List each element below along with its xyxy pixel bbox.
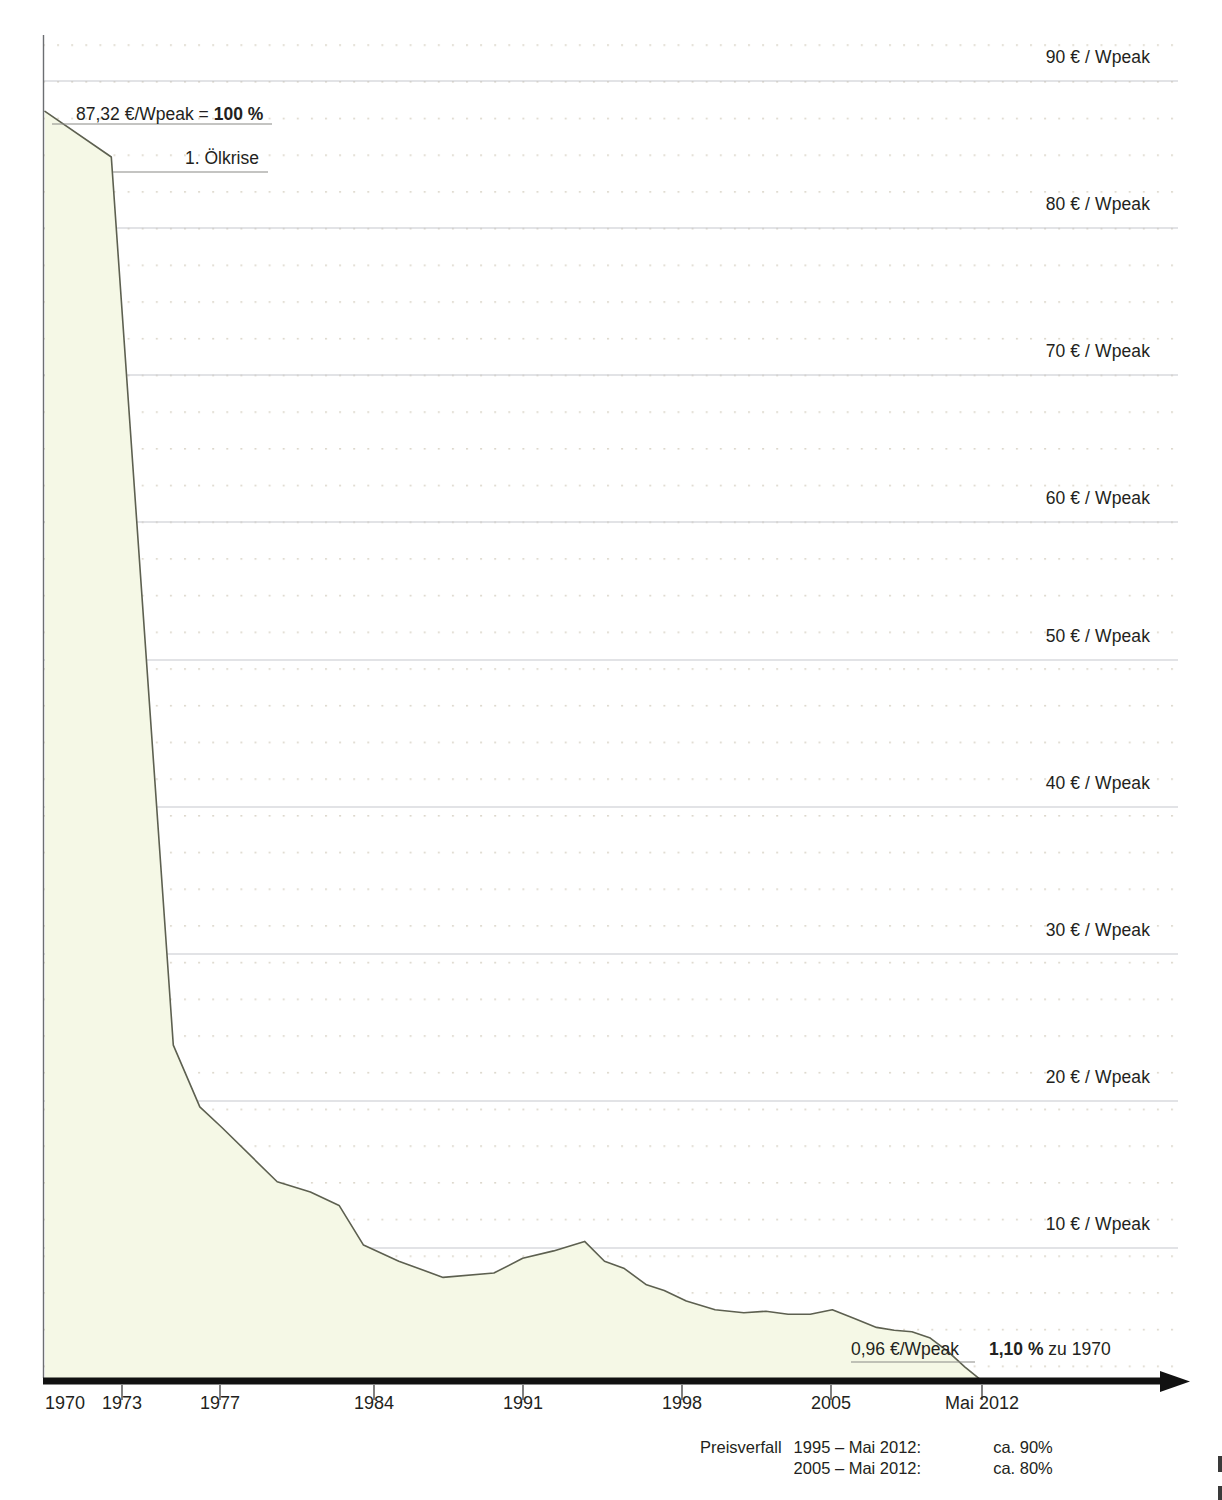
y-axis-label-70: 70 € / Wpeak	[1046, 341, 1150, 362]
annotation-end-value-text: 0,96 €/Wpeak	[851, 1339, 959, 1359]
y-axis-label-20: 20 € / Wpeak	[1046, 1067, 1150, 1088]
annotation-end-percent: 1,10 % zu 1970	[989, 1339, 1111, 1360]
y-axis-label-80: 80 € / Wpeak	[1046, 194, 1150, 215]
chart-canvas	[0, 0, 1222, 1500]
price-decline-footer: Preisverfall 1995 – Mai 2012: ca. 90% 20…	[700, 1437, 1053, 1479]
y-axis-label-50: 50 € / Wpeak	[1046, 626, 1150, 647]
annotation-end-value: 0,96 €/Wpeak	[851, 1339, 959, 1360]
x-axis-label-1973: 1973	[102, 1393, 142, 1414]
footer-value-1: ca. 90%	[993, 1437, 1053, 1458]
footer-value-2: ca. 80%	[993, 1458, 1053, 1479]
y-axis-label-10: 10 € / Wpeak	[1046, 1214, 1150, 1235]
annotation-end-percent-value: 1,10 %	[989, 1339, 1043, 1359]
x-axis-label-1977: 1977	[200, 1393, 240, 1414]
y-axis-label-90: 90 € / Wpeak	[1046, 47, 1150, 68]
x-axis-label-2005: 2005	[811, 1393, 851, 1414]
y-axis-label-60: 60 € / Wpeak	[1046, 488, 1150, 509]
footer-row: Preisverfall 1995 – Mai 2012: ca. 90%	[700, 1437, 1053, 1458]
x-tick-marks	[122, 1385, 982, 1400]
x-axis-label-1984: 1984	[354, 1393, 394, 1414]
y-axis-label-40: 40 € / Wpeak	[1046, 773, 1150, 794]
page-edge-artifact-top	[1218, 1456, 1222, 1472]
page-edge-artifact-bottom	[1218, 1486, 1222, 1500]
price-decline-area-chart: 90 € / Wpeak 80 € / Wpeak 70 € / Wpeak 6…	[0, 0, 1222, 1500]
footer-range-1: 1995 – Mai 2012:	[794, 1437, 994, 1458]
annotation-start-value-text: 87,32 €/Wpeak =	[76, 104, 214, 124]
annotation-oil-crisis-text: 1. Ölkrise	[185, 148, 259, 168]
footer-table: Preisverfall 1995 – Mai 2012: ca. 90% 20…	[700, 1437, 1053, 1479]
annotation-end-percent-rest: zu 1970	[1043, 1339, 1110, 1359]
footer-title-spacer	[700, 1458, 794, 1479]
footer-title: Preisverfall	[700, 1437, 794, 1458]
annotation-start-value: 87,32 €/Wpeak = 100 %	[76, 104, 263, 125]
x-axis-label-1970: 1970	[45, 1393, 85, 1414]
x-axis-label-1998: 1998	[662, 1393, 702, 1414]
annotation-start-value-percent: 100 %	[214, 104, 264, 124]
footer-range-2: 2005 – Mai 2012:	[794, 1458, 994, 1479]
chart-page: 90 € / Wpeak 80 € / Wpeak 70 € / Wpeak 6…	[0, 0, 1222, 1500]
y-axis-label-30: 30 € / Wpeak	[1046, 920, 1150, 941]
footer-row: 2005 – Mai 2012: ca. 80%	[700, 1458, 1053, 1479]
annotation-oil-crisis: 1. Ölkrise	[185, 148, 259, 169]
x-axis-label-mai-2012: Mai 2012	[945, 1393, 1019, 1414]
x-axis-label-1991: 1991	[503, 1393, 543, 1414]
